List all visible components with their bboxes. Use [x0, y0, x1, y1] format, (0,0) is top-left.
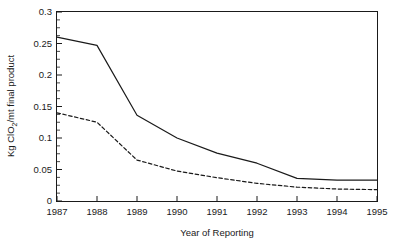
x-axis-title: Year of Reporting [180, 227, 254, 238]
x-tick-label: 1991 [206, 206, 227, 217]
x-tick-label: 1994 [326, 206, 347, 217]
y-tick-label: 0 [47, 195, 52, 206]
x-tick-label: 1995 [366, 206, 387, 217]
x-tick-label: 1989 [126, 206, 147, 217]
x-tick-label: 1993 [286, 206, 307, 217]
y-axis-title: Kg ClO2/mt final product [5, 55, 18, 157]
x-tick-label: 1992 [246, 206, 267, 217]
y-axis-tick-labels: 00.050.10.150.20.250.3 [34, 6, 53, 206]
y-tick-label: 0.15 [34, 101, 53, 112]
y-tick-label: 0.05 [34, 164, 53, 175]
x-tick-label: 1990 [166, 206, 187, 217]
plot-area-background [57, 12, 378, 202]
y-tick-label: 0.3 [39, 6, 52, 17]
figure-container: 00.050.10.150.20.250.3 19871988198919901… [0, 0, 398, 242]
x-tick-label: 1987 [46, 206, 67, 217]
line-chart: 00.050.10.150.20.250.3 19871988198919901… [0, 0, 398, 242]
y-tick-label: 0.25 [34, 38, 53, 49]
y-axis-title-suffix: /mt final product [5, 55, 16, 123]
y-axis-title-prefix: Kg ClO [5, 126, 16, 157]
y-tick-label: 0.2 [39, 69, 52, 80]
x-axis-tick-labels: 198719881989199019911992199319941995 [46, 206, 387, 217]
y-tick-label: 0.1 [39, 132, 52, 143]
svg-text:Kg ClO2/mt final product: Kg ClO2/mt final product [5, 55, 18, 157]
x-tick-label: 1988 [86, 206, 107, 217]
